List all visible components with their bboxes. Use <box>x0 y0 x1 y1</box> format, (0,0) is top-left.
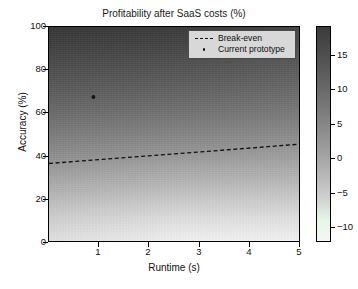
y-axis-label: Accuracy (%) <box>17 52 29 192</box>
legend-item-current-prototype: Current prototype <box>193 44 291 55</box>
colorbar-tick-mark-minus10 <box>331 227 335 228</box>
colorbar-tick-mark-0 <box>331 158 335 159</box>
ytick-mark-100 <box>43 26 48 27</box>
ytick-mark-20 <box>43 199 48 200</box>
current-prototype-marker <box>92 95 96 99</box>
dashed-line-icon <box>193 38 215 39</box>
plot-overlay <box>49 27 300 242</box>
dot-marker-icon <box>193 48 215 51</box>
colorbar-tick-label-10: 10 <box>337 84 348 94</box>
colorbar-tick-mark-15 <box>331 55 335 56</box>
colorbar <box>316 26 331 242</box>
xtick-label-2: 2 <box>145 246 150 257</box>
xtick-label-3: 3 <box>196 246 201 257</box>
chart-figure: Profitability after SaaS costs (%) 100 8… <box>0 0 358 289</box>
colorbar-tick-label-minus5: −5 <box>337 188 348 198</box>
xtick-label-5: 5 <box>296 246 301 257</box>
colorbar-tick-mark-5 <box>331 124 335 125</box>
xtick-label-4: 4 <box>246 246 251 257</box>
break-even-line <box>49 144 300 163</box>
colorbar-tick-mark-minus5 <box>331 193 335 194</box>
colorbar-tick-label-15: 15 <box>337 50 348 60</box>
ytick-mark-40 <box>43 156 48 157</box>
chart-legend: Break-even Current prototype <box>188 30 296 59</box>
legend-label-break-even: Break-even <box>215 33 262 44</box>
xtick-label-1: 1 <box>95 246 100 257</box>
legend-item-break-even: Break-even <box>193 33 291 44</box>
colorbar-tick-label-minus10: −10 <box>337 222 353 232</box>
colorbar-tick-label-5: 5 <box>337 119 342 129</box>
colorbar-tick-mark-10 <box>331 89 335 90</box>
colorbar-tick-label-0: 0 <box>337 153 342 163</box>
legend-label-current-prototype: Current prototype <box>215 44 285 55</box>
x-axis-label: Runtime (s) <box>48 262 300 274</box>
ytick-mark-80 <box>43 69 48 70</box>
ytick-mark-0 <box>43 242 48 243</box>
ytick-mark-60 <box>43 112 48 113</box>
chart-title: Profitability after SaaS costs (%) <box>48 8 300 20</box>
